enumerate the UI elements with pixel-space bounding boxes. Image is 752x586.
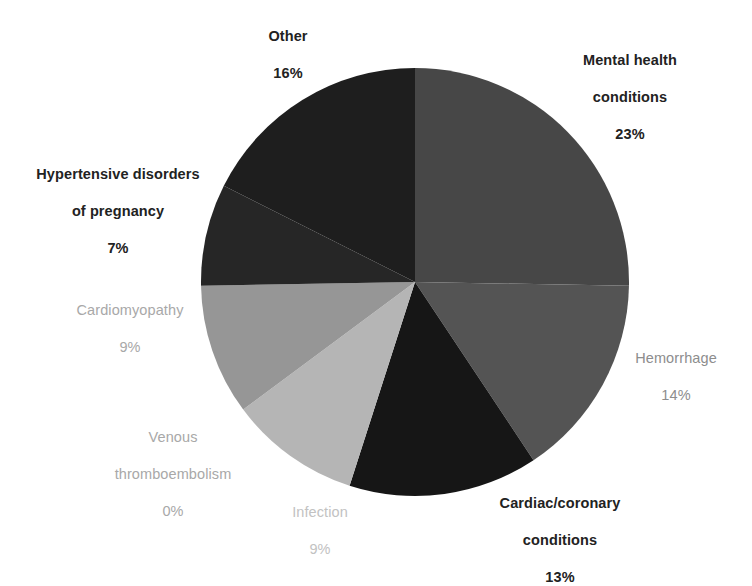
slice-label-mental-health: Mental health conditions 23% [540, 32, 720, 162]
slice-label-cardiac-coronary-line2: conditions [470, 531, 650, 550]
slice-label-cardiac-coronary: Cardiac/coronary conditions 13% [470, 475, 650, 586]
slice-label-infection-percent: 9% [250, 540, 390, 559]
slice-label-hypertensive-disorders-line1: Hypertensive disorders [18, 165, 218, 184]
slice-label-mental-health-line1: Mental health [540, 51, 720, 70]
slice-label-other: Other 16% [208, 8, 368, 101]
slice-label-hemorrhage-percent: 14% [606, 386, 746, 405]
slice-label-cardiac-coronary-line1: Cardiac/coronary [470, 494, 650, 513]
slice-label-venous-thromboembolism-line2: thromboembolism [88, 465, 258, 484]
slice-label-other-name: Other [208, 27, 368, 46]
slice-label-hypertensive-disorders-line2: of pregnancy [18, 202, 218, 221]
slice-label-other-percent: 16% [208, 64, 368, 83]
slice-label-venous-thromboembolism-percent: 0% [88, 502, 258, 521]
slice-label-hemorrhage-name: Hemorrhage [606, 349, 746, 368]
slice-label-hypertensive-disorders: Hypertensive disorders of pregnancy 7% [18, 146, 218, 276]
slice-label-cardiomyopathy-percent: 9% [40, 338, 220, 357]
slice-label-cardiac-coronary-percent: 13% [470, 568, 650, 586]
slice-label-hemorrhage: Hemorrhage 14% [606, 330, 746, 423]
slice-label-cardiomyopathy: Cardiomyopathy 9% [40, 282, 220, 375]
slice-label-infection: Infection 9% [250, 484, 390, 577]
slice-label-mental-health-line2: conditions [540, 88, 720, 107]
slice-label-cardiomyopathy-name: Cardiomyopathy [40, 301, 220, 320]
slice-label-venous-thromboembolism-line1: Venous [88, 428, 258, 447]
slice-label-mental-health-percent: 23% [540, 125, 720, 144]
slice-label-hypertensive-disorders-percent: 7% [18, 239, 218, 258]
slice-label-infection-name: Infection [250, 503, 390, 522]
slice-label-venous-thromboembolism: Venous thromboembolism 0% [88, 409, 258, 539]
